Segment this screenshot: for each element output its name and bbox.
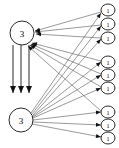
node-R2[interactable]: 1 <box>101 18 115 30</box>
node-label-R2: 1 <box>107 22 110 28</box>
arrow-head-icon <box>96 75 101 79</box>
node-label-R9: 1 <box>107 136 110 142</box>
arrow-head-icon <box>96 13 101 18</box>
arrow-head-icon <box>96 134 101 138</box>
node-R6[interactable]: 1 <box>101 82 115 94</box>
arrow-head-icon <box>10 86 16 93</box>
node-R3[interactable]: 1 <box>101 32 115 44</box>
edge-R2-to-L1 <box>35 25 101 32</box>
node-R8[interactable]: 1 <box>101 119 115 131</box>
arrow-head-icon <box>96 26 101 31</box>
node-L2[interactable]: 3 <box>9 108 33 132</box>
node-label-L1: 3 <box>20 29 25 39</box>
edge-R3-to-L1 <box>36 34 101 38</box>
edge-R1-to-L1 <box>35 12 101 31</box>
edge-R5-to-L1 <box>31 44 101 74</box>
edge-L2-to-R3 <box>33 39 101 115</box>
node-label-R4: 1 <box>107 60 110 66</box>
node-R4[interactable]: 1 <box>101 56 115 68</box>
edge-L2-to-R9 <box>32 124 101 137</box>
node-label-R5: 1 <box>107 73 110 79</box>
node-R1[interactable]: 1 <box>101 4 115 16</box>
node-label-R8: 1 <box>107 123 110 129</box>
node-R9[interactable]: 1 <box>101 132 115 144</box>
edge-L2-to-R1 <box>31 13 101 113</box>
edge-L2-to-R4 <box>33 62 101 116</box>
node-L1[interactable]: 3 <box>10 21 34 45</box>
arrow-head-icon <box>96 88 101 92</box>
arrow-head-icon <box>96 123 101 127</box>
node-label-R3: 1 <box>107 36 110 42</box>
node-label-L2: 3 <box>19 116 24 126</box>
node-label-R1: 1 <box>107 8 110 14</box>
edge-L2-to-R8 <box>33 122 101 125</box>
node-label-R6: 1 <box>107 86 110 92</box>
arrow-head-icon <box>96 111 101 115</box>
graph-canvas: 33111111111 <box>0 0 119 148</box>
graph-svg: 33111111111 <box>0 0 119 148</box>
node-label-R7: 1 <box>107 110 110 116</box>
node-R5[interactable]: 1 <box>101 69 115 81</box>
node-R7[interactable]: 1 <box>101 106 115 118</box>
arrow-head-icon <box>18 86 24 93</box>
arrow-head-icon <box>26 86 32 93</box>
arrow-head-icon <box>96 62 101 67</box>
